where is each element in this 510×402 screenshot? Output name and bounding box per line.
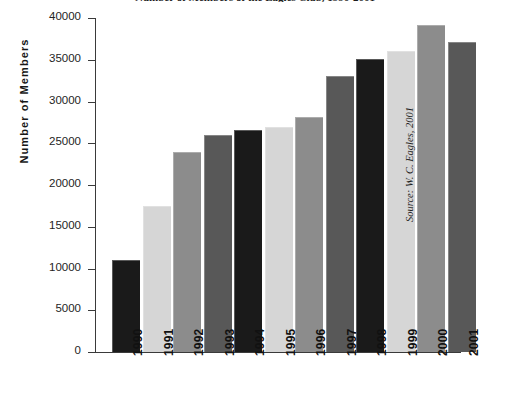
- bar-highlight: [173, 152, 201, 352]
- bar-highlight: [448, 42, 476, 352]
- bar-highlight: [265, 127, 293, 352]
- y-axis-tick-label: 5000: [25, 302, 81, 314]
- source-note: Source: W. C. Eagles, 2001: [404, 42, 415, 222]
- x-axis-tick-label: 1998: [375, 329, 389, 357]
- x-axis-tick-label: 1997: [345, 329, 359, 357]
- y-axis-tick-label: 20000: [25, 177, 81, 189]
- y-axis-tick-label: 40000: [25, 10, 81, 22]
- bar[interactable]: [448, 42, 476, 352]
- x-axis-tick-label: 1996: [314, 329, 328, 357]
- x-axis-tick-label: 1999: [406, 329, 420, 357]
- bar[interactable]: [417, 25, 445, 352]
- bar[interactable]: [295, 117, 323, 352]
- bar[interactable]: [265, 127, 293, 352]
- bar-highlight: [417, 25, 445, 352]
- x-axis-tick-label: 1992: [192, 329, 206, 357]
- x-axis-tick-label: 1990: [131, 329, 145, 357]
- bar[interactable]: [326, 76, 354, 352]
- x-axis-tick-label: 1993: [223, 329, 237, 357]
- y-axis-tick-label: 35000: [25, 52, 81, 64]
- bar-highlight: [234, 130, 262, 352]
- x-axis-tick-label: 1994: [253, 329, 267, 357]
- y-axis-tick-label: 25000: [25, 135, 81, 147]
- x-axis-tick-label: 1995: [284, 329, 298, 357]
- bar[interactable]: [356, 59, 384, 352]
- bar-highlight: [295, 117, 323, 352]
- x-axis-tick-label: 1991: [162, 329, 176, 357]
- bar-highlight: [326, 76, 354, 352]
- bar-highlight: [356, 59, 384, 352]
- bar[interactable]: [204, 135, 232, 352]
- bar[interactable]: [234, 130, 262, 352]
- y-axis-tick-label: 15000: [25, 219, 81, 231]
- y-axis-tick-label: 10000: [25, 261, 81, 273]
- x-axis-tick-label: 2001: [467, 329, 481, 357]
- y-axis-tick-label: 30000: [25, 94, 81, 106]
- bar[interactable]: [173, 152, 201, 352]
- x-axis-tick-label: 2000: [436, 329, 450, 357]
- bar-chart: Number of Members of the Eagles Club, 19…: [0, 0, 510, 402]
- chart-title: Number of Members of the Eagles Club, 19…: [0, 0, 510, 2]
- bar-highlight: [204, 135, 232, 352]
- y-axis-tick-label: 0: [25, 344, 81, 356]
